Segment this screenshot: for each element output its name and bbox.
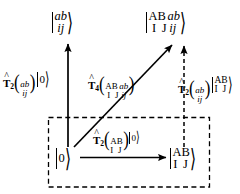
ket-denominator-occupied: ij bbox=[169, 21, 176, 35]
paren-open-icon: ( bbox=[189, 81, 195, 98]
ket-angle-bracket: ⟩ bbox=[67, 13, 73, 33]
ket-angle-bracket: ⟩ bbox=[190, 149, 196, 169]
paren-open-icon: ( bbox=[99, 76, 105, 93]
operator-arg-denominator: ij bbox=[197, 95, 202, 104]
state-top-left-ket: ab ij ⟩ bbox=[52, 10, 77, 36]
ket-bar bbox=[37, 72, 38, 87]
operator-arg-denominator-core: I J bbox=[107, 90, 119, 100]
ket-bar bbox=[146, 12, 147, 33]
excitation-diagram: ab ij ⟩ ABab I Jij ⟩ ^T2 ( ab ij ) bbox=[0, 0, 240, 194]
state-bottom-right-ket: AB I J ⟩ bbox=[170, 146, 200, 172]
hat-icon: ^ bbox=[4, 71, 9, 81]
operator-symbol: ^T bbox=[178, 84, 185, 95]
operator-arg-denominator: ij bbox=[22, 89, 27, 98]
ket-angle-bracket: ⟩ bbox=[180, 13, 186, 33]
operator-label-right-vertical: ^T2 ( ab ij ) AB I J ⟩ bbox=[178, 76, 235, 104]
ket-angle-bracket: ⟩ bbox=[136, 132, 140, 144]
operator-symbol: ^T bbox=[3, 78, 10, 89]
operator-label-left-vertical: ^T2 ( ab ij ) 0 ⟩ bbox=[3, 72, 52, 98]
ket-denominator-core: I J bbox=[152, 21, 168, 35]
ket-bar bbox=[212, 77, 213, 93]
paren-open-icon: ( bbox=[104, 131, 110, 148]
ket-bar bbox=[170, 148, 171, 169]
ket-denominator-row: I Jij bbox=[152, 22, 176, 34]
state-bottom-left-ket: 0 ⟩ bbox=[56, 148, 75, 172]
operator-arg-denominator-row: I Jij bbox=[107, 91, 126, 100]
hat-icon: ^ bbox=[89, 73, 94, 83]
ket-angle-bracket: ⟩ bbox=[228, 78, 232, 93]
state-top-right-ket: ABab I Jij ⟩ bbox=[146, 10, 190, 36]
hat-icon: ^ bbox=[94, 128, 99, 138]
ket-bar bbox=[52, 12, 53, 33]
operator-arg-denominator: I J bbox=[110, 146, 122, 155]
ket-bar bbox=[129, 132, 130, 144]
ket-bar bbox=[56, 148, 57, 169]
operator-label-diagonal: ^T4 ( ABab I Jij ) bbox=[88, 76, 134, 100]
ket-zero-label: 0 bbox=[59, 152, 65, 165]
operator-symbol: ^T bbox=[88, 80, 95, 91]
ket-denominator: ij bbox=[57, 22, 64, 34]
paren-close-icon: ) bbox=[123, 131, 129, 148]
paren-close-icon: ) bbox=[30, 74, 36, 91]
ket-denominator: I J bbox=[215, 85, 228, 94]
operator-arg-denominator-occupied: ij bbox=[121, 90, 126, 100]
paren-open-icon: ( bbox=[14, 74, 20, 91]
ket-denominator: I J bbox=[173, 158, 189, 170]
ket-angle-bracket: ⟩ bbox=[65, 149, 71, 169]
hat-icon: ^ bbox=[179, 77, 184, 87]
operator-symbol: ^T bbox=[93, 135, 100, 146]
paren-close-icon: ) bbox=[129, 76, 135, 93]
ket-angle-bracket: ⟩ bbox=[45, 72, 49, 86]
operator-label-bottom-horizontal: ^T2 ( AB I J ) 0 ⟩ bbox=[93, 131, 142, 155]
paren-close-icon: ) bbox=[205, 81, 211, 98]
